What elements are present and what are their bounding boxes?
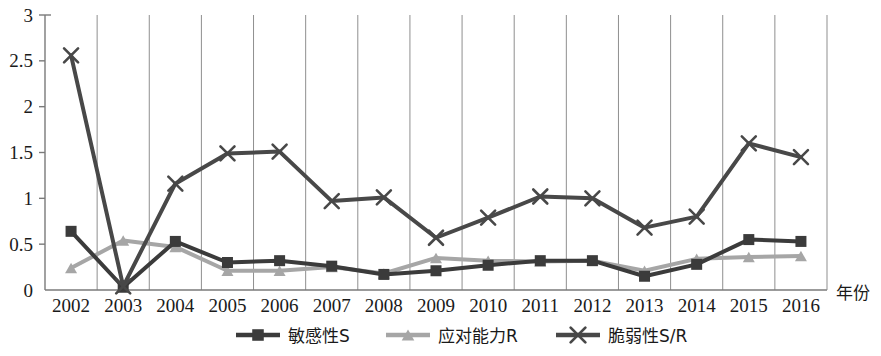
y-axis-tick-label: 0: [24, 280, 34, 301]
data-point-marker-square: [639, 271, 650, 282]
data-point-marker-square: [378, 269, 389, 280]
x-axis-tick-label: 2004: [156, 295, 195, 316]
data-point-marker-square: [795, 236, 806, 247]
legend-item-3[interactable]: 脆弱性S/R: [556, 326, 688, 346]
x-axis-tick-label: 2012: [573, 295, 611, 316]
y-axis-tick-label: 1: [24, 188, 34, 209]
y-axis-ticks: [39, 15, 45, 244]
y-axis-tick-label: 1.5: [9, 142, 33, 163]
data-point-marker-x: [168, 177, 182, 191]
x-axis-tick-label: 2006: [261, 295, 299, 316]
line-chart: 00.511.522.53 20022003200420052006200720…: [0, 0, 881, 356]
x-axis-tick-labels: 2002200320042005200620072008200920102011…: [52, 295, 820, 316]
legend-label: 脆弱性S/R: [608, 326, 688, 346]
data-point-marker-square: [743, 234, 754, 245]
x-axis-tick-label: 2015: [730, 295, 768, 316]
chart-axes: [45, 15, 827, 290]
data-point-marker-square: [326, 261, 337, 272]
x-axis-tick-label: 2010: [469, 295, 507, 316]
data-point-marker-square: [483, 260, 494, 271]
x-axis-tick-label: 2014: [678, 295, 717, 316]
data-point-marker-square: [691, 259, 702, 270]
x-axis-tick-label: 2007: [313, 295, 351, 316]
legend-item-2[interactable]: 应对能力R: [386, 326, 518, 346]
x-axis-tick-label: 2005: [208, 295, 246, 316]
data-point-marker-square: [170, 236, 181, 247]
x-axis-tick-label: 2003: [104, 295, 142, 316]
y-axis-tick-label: 2.5: [9, 50, 33, 71]
data-point-marker-square: [535, 255, 546, 266]
x-axis-tick-label: 2011: [522, 295, 559, 316]
data-point-marker-square: [587, 255, 598, 266]
y-axis-tick-labels: 00.511.522.53: [9, 5, 33, 301]
x-axis-tick-label: 2009: [417, 295, 455, 316]
data-point-marker-square: [431, 265, 442, 276]
x-axis-tick-label: 2016: [782, 295, 820, 316]
x-axis-tick-label: 2008: [365, 295, 403, 316]
x-axis-tick-label: 2002: [52, 295, 90, 316]
legend-item-1[interactable]: 敏感性S: [236, 326, 350, 346]
y-axis-tick-label: 0.5: [9, 234, 33, 255]
y-axis-tick-label: 3: [24, 5, 34, 26]
legend-label: 敏感性S: [288, 326, 350, 346]
data-point-marker-square: [222, 257, 233, 268]
data-point-marker-square: [66, 226, 77, 237]
chart-container: 00.511.522.53 20022003200420052006200720…: [0, 0, 881, 356]
chart-legend: 敏感性S应对能力R脆弱性S/R: [236, 326, 688, 346]
data-series-layer: [64, 48, 808, 293]
data-point-marker-square: [274, 255, 285, 266]
x-axis-title: 年份: [836, 283, 870, 303]
data-point-marker-square: [252, 329, 264, 341]
legend-label: 应对能力R: [438, 326, 518, 346]
y-axis-tick-label: 2: [24, 96, 34, 117]
x-axis-tick-label: 2013: [626, 295, 664, 316]
